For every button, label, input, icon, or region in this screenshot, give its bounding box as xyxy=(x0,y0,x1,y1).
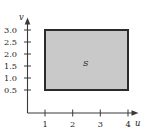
y-tick-label-1-5: 1.5 xyxy=(4,61,17,71)
y-tick-label-0-5: 0.5 xyxy=(4,85,17,95)
y-tick-label-2-5: 2.5 xyxy=(4,37,17,47)
y-axis-label: v xyxy=(19,12,24,22)
y-axis-arrow-icon xyxy=(25,18,31,25)
figure-container: 3.0 2.5 2.0 1.5 1.0 0.5 1 2 3 4 v u S xyxy=(0,0,143,133)
x-axis-arrow-icon xyxy=(132,110,139,116)
region-label-S: S xyxy=(83,59,89,68)
y-tick-label-2-0: 2.0 xyxy=(4,49,17,59)
x-tick-label-4: 4 xyxy=(125,119,130,129)
uv-plane-diagram: 3.0 2.5 2.0 1.5 1.0 0.5 1 2 3 4 v u S xyxy=(0,0,143,133)
x-tick-label-2: 2 xyxy=(70,119,75,129)
x-axis-label: u xyxy=(135,118,140,128)
y-tick-label-1-0: 1.0 xyxy=(4,73,17,83)
x-tick-label-1: 1 xyxy=(42,119,47,129)
y-tick-label-3-0: 3.0 xyxy=(4,25,17,35)
x-tick-label-3: 3 xyxy=(98,119,103,129)
